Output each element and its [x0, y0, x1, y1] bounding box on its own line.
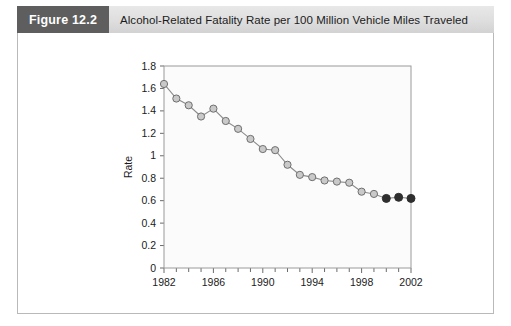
- data-point-open: [259, 145, 266, 152]
- y-tick-label: 0: [150, 262, 156, 274]
- data-point-open: [284, 161, 291, 168]
- y-tick-label: 1.6: [141, 82, 156, 94]
- data-point-open: [358, 188, 365, 195]
- data-point-open: [222, 117, 229, 124]
- data-point-open: [346, 179, 353, 186]
- figure-number-tag: Figure 12.2: [17, 6, 109, 33]
- x-tick-label: 2002: [399, 276, 423, 288]
- data-point-open: [309, 174, 316, 181]
- line-chart: 00.20.40.60.811.21.41.61.8 1982198619901…: [17, 33, 494, 314]
- y-axis-title: Rate: [122, 156, 134, 178]
- x-tick-label: 1982: [152, 276, 176, 288]
- data-point-open: [272, 147, 279, 154]
- y-tick-label: 1: [150, 149, 156, 161]
- y-tick-label: 0.6: [141, 194, 156, 206]
- y-axis-ticks: 00.20.40.60.811.21.41.61.8: [141, 60, 164, 274]
- x-tick-label: 1994: [301, 276, 325, 288]
- data-point-open: [321, 177, 328, 184]
- figure-header: Figure 12.2 Alcohol-Related Fatality Rat…: [17, 6, 494, 33]
- x-tick-label: 1986: [202, 276, 226, 288]
- data-point-open: [333, 178, 340, 185]
- x-tick-label: 1998: [350, 276, 374, 288]
- data-point-solid: [395, 193, 403, 201]
- data-point-open: [173, 95, 180, 102]
- data-point-solid: [407, 194, 415, 202]
- y-tick-label: 0.2: [141, 239, 156, 251]
- y-tick-label: 0.8: [141, 172, 156, 184]
- y-tick-label: 1.2: [141, 127, 156, 139]
- x-tick-label: 1990: [251, 276, 275, 288]
- data-point-open: [197, 113, 204, 120]
- figure-number-label: Figure 12.2: [29, 13, 97, 27]
- data-point-open: [160, 80, 167, 87]
- y-tick-label: 1.4: [141, 104, 156, 116]
- data-point-open: [235, 125, 242, 132]
- data-point-open: [210, 105, 217, 112]
- data-point-solid: [382, 194, 390, 202]
- figure-title-bar: Alcohol-Related Fatality Rate per 100 Mi…: [109, 6, 494, 33]
- y-tick-label: 0.4: [141, 217, 156, 229]
- figure-title: Alcohol-Related Fatality Rate per 100 Mi…: [120, 14, 468, 26]
- data-point-open: [370, 190, 377, 197]
- data-point-open: [296, 171, 303, 178]
- y-tick-label: 1.8: [141, 60, 156, 72]
- data-point-open: [185, 102, 192, 109]
- figure-container: Figure 12.2 Alcohol-Related Fatality Rat…: [0, 0, 511, 326]
- data-point-open: [247, 135, 254, 142]
- chart-area: 00.20.40.60.811.21.41.61.8 1982198619901…: [17, 33, 494, 314]
- x-axis-ticks: 198219861990199419982002: [152, 268, 423, 288]
- axis-labels: Rate: [122, 156, 134, 178]
